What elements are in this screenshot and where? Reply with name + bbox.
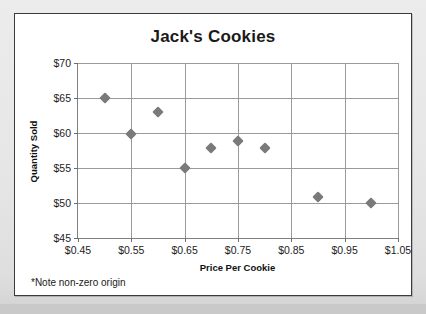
y-axis-tick-label: $70 xyxy=(53,57,71,69)
x-axis-tick xyxy=(345,238,346,242)
data-point xyxy=(206,143,217,154)
y-axis-tick xyxy=(74,203,78,204)
x-gridline xyxy=(131,63,132,238)
data-point xyxy=(152,106,163,117)
x-gridline xyxy=(291,63,292,238)
x-axis-tick-label: $0.75 xyxy=(225,244,251,256)
y-axis-tick-label: $65 xyxy=(53,92,71,104)
x-gridline xyxy=(398,63,399,238)
data-point xyxy=(366,197,377,208)
x-axis-tick-label: $1.05 xyxy=(385,244,411,256)
x-axis-tick-label: $0.85 xyxy=(278,244,304,256)
x-axis-tick-label: $0.45 xyxy=(65,244,91,256)
x-axis-tick-label: $0.65 xyxy=(172,244,198,256)
data-point xyxy=(232,136,243,147)
x-axis-tick xyxy=(78,238,79,242)
chart-title: Jack's Cookies xyxy=(15,27,411,47)
y-axis-tick-label: $50 xyxy=(53,197,71,209)
data-point xyxy=(99,92,110,103)
y-axis-title: Quantity Sold xyxy=(27,63,41,239)
y-axis-tick xyxy=(74,168,78,169)
y-axis-tick-label: $55 xyxy=(53,162,71,174)
x-axis-tick xyxy=(291,238,292,242)
y-axis-tick-label: $60 xyxy=(53,127,71,139)
x-gridline xyxy=(345,63,346,238)
x-axis-tick xyxy=(398,238,399,242)
chart-card: Jack's Cookies Quantity Sold $45$50$55$6… xyxy=(14,13,412,296)
x-gridline xyxy=(238,63,239,238)
x-axis-tick-label: $0.55 xyxy=(118,244,144,256)
x-axis-tick-label: $0.95 xyxy=(332,244,358,256)
page-bottom-band xyxy=(0,304,426,314)
data-point xyxy=(179,162,190,173)
x-axis-title: Price Per Cookie xyxy=(77,262,398,273)
x-axis-tick xyxy=(131,238,132,242)
y-axis-tick xyxy=(74,98,78,99)
x-gridline xyxy=(185,63,186,238)
x-axis-tick xyxy=(238,238,239,242)
y-axis-title-label: Quantity Sold xyxy=(29,120,40,182)
data-point xyxy=(259,143,270,154)
y-axis-tick xyxy=(74,133,78,134)
x-axis-tick xyxy=(185,238,186,242)
data-point xyxy=(312,192,323,203)
chart-footnote: *Note non-zero origin xyxy=(31,277,126,288)
plot-area: $45$50$55$60$65$70$0.45$0.55$0.65$0.75$0… xyxy=(77,63,398,239)
y-axis-tick xyxy=(74,63,78,64)
data-point xyxy=(126,129,137,140)
y-axis-tick-label: $45 xyxy=(53,232,71,244)
